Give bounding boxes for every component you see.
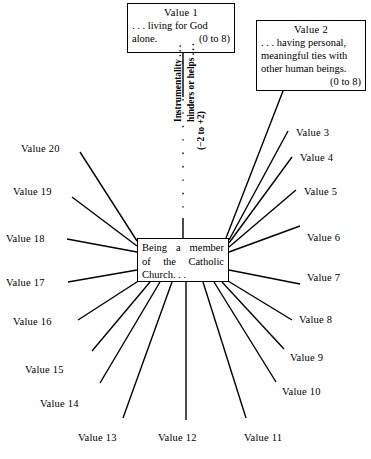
spoke-line-value16 xyxy=(78,280,140,320)
center-text-line-2: of the Catholic xyxy=(142,255,224,269)
spoke-label-value-12: Value 12 xyxy=(158,432,197,444)
spoke-label-value-7: Value 7 xyxy=(307,272,340,284)
center-text-line-1: Being a member xyxy=(142,241,224,255)
instrumentality-line-2: hinders or helps . . . xyxy=(185,0,198,122)
instrumentality-line-1: Instrumentality . . . xyxy=(172,0,185,122)
spoke-label-value-18: Value 18 xyxy=(6,233,45,245)
spoke-line-value5 xyxy=(229,190,296,247)
spoke-label-value-20: Value 20 xyxy=(21,143,60,155)
spoke-line-value9 xyxy=(222,282,284,349)
spoke-line-value20 xyxy=(80,152,137,241)
instrumentality-axis-caption: Instrumentality . . . hinders or helps .… xyxy=(172,0,198,122)
spoke-label-value-19: Value 19 xyxy=(13,186,52,198)
value-1-text-line-2: alone. xyxy=(132,32,157,45)
spoke-line-value7 xyxy=(229,270,300,284)
spoke-label-value-17: Value 17 xyxy=(6,277,45,289)
value-2-text-line-1: . . . having personal, xyxy=(261,36,361,49)
spoke-line-value6 xyxy=(229,226,300,252)
spoke-label-value-3: Value 3 xyxy=(296,127,329,139)
spoke-label-value-13: Value 13 xyxy=(78,432,117,444)
value-1-range: (0 to 8) xyxy=(199,32,230,45)
spoke-label-value-9: Value 9 xyxy=(290,352,323,364)
spoke-line-value3 xyxy=(229,131,288,240)
value-2-text-line-3: other human beings. xyxy=(261,62,361,75)
spoke-label-value-8: Value 8 xyxy=(299,314,332,326)
spoke-line-value17 xyxy=(68,270,137,282)
spoke-line-value10 xyxy=(214,282,276,382)
spoke-label-value-10: Value 10 xyxy=(282,386,321,398)
spoke-label-value-15: Value 15 xyxy=(25,364,64,376)
spoke-label-value-6: Value 6 xyxy=(307,232,340,244)
spoke-line-value8 xyxy=(228,281,292,320)
value-2-range: (0 to 8) xyxy=(261,75,361,88)
center-text-line-3: Church. . . xyxy=(142,268,224,282)
instrumentality-range: (−2 to +2) xyxy=(196,111,206,150)
spoke-line-value2 xyxy=(226,91,283,238)
spoke-line-value14 xyxy=(100,282,160,383)
value-2-title: Value 2 xyxy=(261,23,361,36)
spoke-line-value19 xyxy=(72,197,137,246)
center-node-box: Being a member of the Catholic Church. .… xyxy=(137,238,229,282)
value-2-box: Value 2 . . . having personal, meaningfu… xyxy=(256,20,366,91)
spoke-label-value-11: Value 11 xyxy=(244,432,282,444)
diagram-canvas: Value 1 . . . living for God alone. (0 t… xyxy=(0,0,371,459)
spoke-line-value18 xyxy=(67,239,137,252)
spoke-line-value4 xyxy=(229,157,292,243)
spoke-line-value11 xyxy=(203,282,246,418)
spoke-label-value-4: Value 4 xyxy=(300,152,333,164)
spoke-label-value-14: Value 14 xyxy=(40,398,79,410)
value-2-text-line-2: meaningful ties with xyxy=(261,49,361,62)
spoke-label-value-5: Value 5 xyxy=(304,186,337,198)
spoke-label-value-16: Value 16 xyxy=(13,316,52,328)
